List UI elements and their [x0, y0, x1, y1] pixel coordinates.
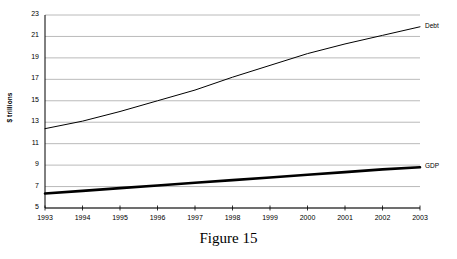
- x-tick-label: 2000: [288, 214, 328, 221]
- y-tick-label: 7: [17, 182, 39, 189]
- series-label-gdp: GDP: [425, 162, 439, 169]
- x-tick-label: 1998: [213, 214, 253, 221]
- y-tick-label: 5: [17, 203, 39, 210]
- series-label-debt: Debt: [425, 22, 439, 29]
- figure-caption: Figure 15: [0, 230, 457, 247]
- y-tick-label: 19: [17, 53, 39, 60]
- series-line-gdp: [45, 167, 420, 193]
- y-tick-label: 17: [17, 74, 39, 81]
- chart-plot-area: $ trillions 57911131517192123 1993199419…: [0, 0, 457, 228]
- series-lines-group: [45, 27, 420, 194]
- y-tick-label: 21: [17, 31, 39, 38]
- x-tick-label: 1997: [175, 214, 215, 221]
- y-tick-label: 11: [17, 139, 39, 146]
- y-tick-label: 15: [17, 96, 39, 103]
- line-chart-svg: [0, 0, 457, 228]
- x-tick-label: 2001: [325, 214, 365, 221]
- figure-container: $ trillions 57911131517192123 1993199419…: [0, 0, 457, 259]
- y-axis-title: $ trillions: [6, 76, 13, 140]
- x-tick-label: 1994: [63, 214, 103, 221]
- series-line-debt: [45, 27, 420, 129]
- y-tick-label: 23: [17, 10, 39, 17]
- x-tick-label: 1993: [25, 214, 65, 221]
- x-tick-label: 1999: [250, 214, 290, 221]
- x-tick-label: 1996: [138, 214, 178, 221]
- y-tick-label: 9: [17, 160, 39, 167]
- x-tick-label: 2003: [400, 214, 440, 221]
- x-tick-label: 1995: [100, 214, 140, 221]
- x-tick-label: 2002: [363, 214, 403, 221]
- y-tick-label: 13: [17, 117, 39, 124]
